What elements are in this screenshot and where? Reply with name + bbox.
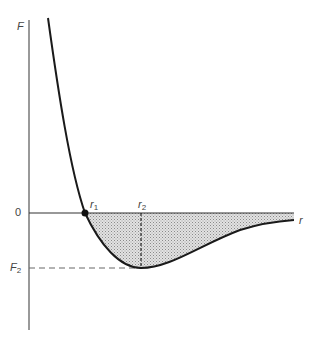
r1-point [82, 210, 89, 217]
diagram-svg [0, 0, 318, 348]
y-axis-label: F [17, 20, 24, 32]
r2-label-sub: 2 [142, 203, 146, 212]
r1-label: r1 [90, 198, 98, 212]
zero-label: 0 [15, 206, 21, 218]
shaded-well-region [85, 213, 294, 268]
f2-label-base: F [10, 261, 17, 273]
r1-label-sub: 1 [94, 203, 98, 212]
f2-label: F2 [10, 261, 21, 275]
diagram: F r 0 F2 r1 r2 [0, 0, 318, 348]
x-axis-label: r [299, 214, 303, 226]
f2-label-sub: 2 [17, 266, 21, 275]
r2-label: r2 [138, 198, 146, 212]
